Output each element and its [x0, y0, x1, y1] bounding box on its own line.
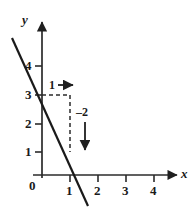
rise-annotation-label: –2 — [76, 106, 88, 118]
run-annotation-label: 1 — [49, 79, 55, 91]
y-tick-label-1: 1 — [25, 145, 32, 158]
graph-figure: y x 0 4 3 2 1 1 2 3 4 1 –2 — [0, 0, 195, 211]
y-tick-label-4: 4 — [25, 59, 32, 72]
x-axis — [33, 175, 177, 182]
x-tick-label-4: 4 — [150, 184, 157, 197]
y-tick-label-3: 3 — [25, 88, 32, 101]
origin-label: 0 — [29, 179, 36, 192]
y-axis-label: y — [22, 13, 28, 26]
plotted-line — [12, 38, 88, 206]
x-tick-label-2: 2 — [94, 184, 101, 197]
x-tick-label-3: 3 — [122, 184, 129, 197]
x-axis-label: x — [181, 167, 188, 180]
x-tick-label-1: 1 — [66, 184, 73, 197]
y-tick-label-2: 2 — [25, 117, 32, 130]
